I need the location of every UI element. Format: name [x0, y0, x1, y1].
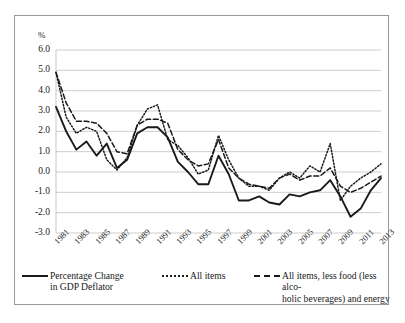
- series-line-0: [56, 107, 381, 217]
- legend-label: All items: [190, 270, 257, 281]
- legend-swatch-dotted-icon: [162, 275, 188, 281]
- legend-item-gdp-deflator: Percentage Change in GDP Deflator: [22, 270, 157, 293]
- legend-swatch-solid-icon: [22, 275, 48, 281]
- legend-item-all-items: All items: [162, 270, 257, 281]
- legend-label: Percentage Change in GDP Deflator: [50, 270, 157, 293]
- legend-label: All items, less food (less alco- holic b…: [282, 270, 394, 304]
- legend-item-all-items-less-food-energy: All items, less food (less alco- holic b…: [254, 270, 394, 304]
- legend-swatch-dashed-icon: [254, 275, 280, 281]
- series-line-1: [56, 72, 381, 200]
- chart-legend: Percentage Change in GDP Deflator All it…: [22, 268, 384, 300]
- figure-container: % 6.05.04.03.02.01.00.0-1.0-2.0-3.0 1981…: [0, 0, 405, 323]
